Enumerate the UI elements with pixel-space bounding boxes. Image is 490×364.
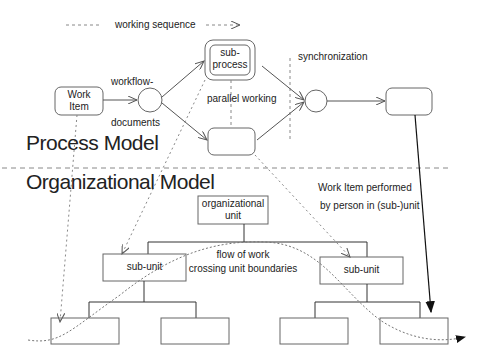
- sub-unit-left-label: sub-unit: [103, 261, 186, 273]
- organizational-model-title: Organizational Model: [26, 170, 214, 194]
- unit-leaf-2: [161, 318, 229, 344]
- parallel-node: [208, 128, 255, 155]
- performed-label-2: by person in (sub-)unit: [320, 200, 420, 212]
- documents-node: [138, 88, 162, 112]
- synchronization-label: synchronization: [298, 51, 367, 63]
- process-model-title: Process Model: [26, 131, 158, 155]
- workflow-label: workflow-: [111, 76, 153, 88]
- unit-leaf-3: [280, 318, 348, 344]
- flow-of-work-label: flow of work crossing unit boundaries: [188, 248, 298, 276]
- final-process-node: [386, 88, 432, 115]
- performed-label-1: Work Item performed: [318, 182, 412, 194]
- sub-unit-right-label: sub-unit: [320, 264, 403, 276]
- working-sequence-label: working sequence: [115, 19, 196, 31]
- org-unit-label: organizational unit: [198, 198, 268, 221]
- subprocess-label: sub- process: [210, 47, 250, 70]
- parallel-working-label: parallel working: [207, 93, 276, 105]
- unit-leaf-1: [51, 318, 119, 344]
- sync-node: [305, 90, 327, 112]
- work-item-label: Work Item: [58, 89, 100, 112]
- documents-label: documents: [111, 117, 160, 129]
